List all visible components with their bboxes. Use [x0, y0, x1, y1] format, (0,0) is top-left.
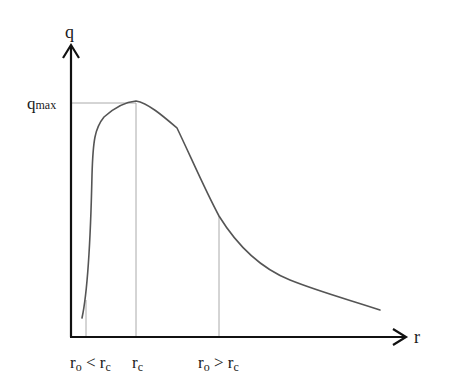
tick-label-rc: rc: [132, 353, 143, 374]
qmax-label: qmax: [27, 94, 56, 113]
x-axis-label: r: [414, 327, 420, 347]
tick-label-ro-greater-rc: ro > rc: [198, 353, 239, 374]
diagram-canvas: q r qmax ro < rc rc ro > rc: [0, 0, 476, 391]
y-axis-label: q: [65, 22, 74, 42]
q-r-curve: [82, 101, 380, 318]
tick-label-ro-less-rc: ro < rc: [70, 353, 111, 374]
